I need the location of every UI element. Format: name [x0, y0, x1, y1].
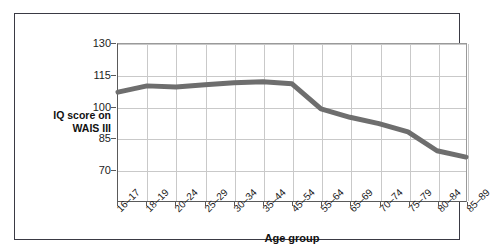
chart-frame: IQ score on WAIS III 1301151008570 Age g…	[14, 13, 460, 240]
series-iq-line	[118, 82, 466, 157]
x-axis-title: Age group	[117, 232, 467, 244]
series-line-chart	[118, 44, 466, 201]
y-axis-tick-mark	[111, 170, 116, 171]
y-axis-tick-label: 85	[71, 133, 111, 144]
y-axis-tick-mark	[111, 43, 116, 44]
plot-area	[117, 43, 467, 202]
y-axis-tick-label: 115	[71, 70, 111, 81]
x-axis-tick-label: 85–89	[465, 187, 492, 214]
y-axis-tick-mark	[111, 138, 116, 139]
y-axis-tick-labels: 1301151008570	[67, 43, 111, 202]
y-axis-tick-mark	[111, 75, 116, 76]
x-gridline	[468, 44, 469, 201]
y-axis-tick-label: 130	[71, 38, 111, 49]
y-axis-tick-label: 70	[71, 165, 111, 176]
y-axis-tick-mark	[111, 107, 116, 108]
y-axis-tick-label: 100	[71, 102, 111, 113]
